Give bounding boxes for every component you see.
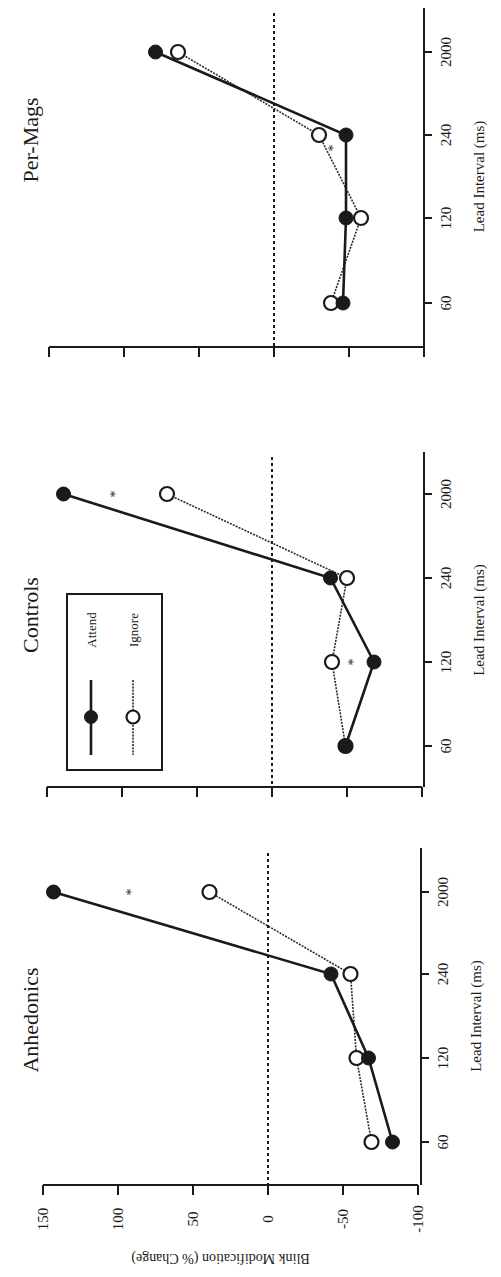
- attend-data-point: [339, 211, 353, 225]
- lead-axis-label: Lead Interval (ms): [471, 121, 488, 233]
- panel-anhedonics: Anhedonics150100500-50-100Blink Modifica…: [18, 848, 486, 1266]
- ignore-data-point: [171, 45, 185, 59]
- attend-series-line: [54, 892, 393, 1142]
- legend-attend-marker: [85, 711, 98, 724]
- value-tick-label: -100: [410, 1205, 426, 1233]
- significance-asterisk: *: [108, 491, 123, 498]
- lead-tick-label: 60: [438, 296, 454, 311]
- ignore-data-point: [312, 128, 326, 142]
- ignore-data-point: [344, 967, 358, 981]
- lead-tick-label: 2000: [438, 479, 454, 509]
- attend-data-point: [149, 45, 163, 59]
- lead-tick-label: 60: [438, 739, 454, 754]
- attend-series-line: [156, 52, 347, 303]
- blink-modification-chart: Anhedonics150100500-50-100Blink Modifica…: [0, 0, 501, 1277]
- attend-data-point: [339, 739, 353, 753]
- ignore-series-line: [167, 494, 347, 746]
- panel-title: Controls: [18, 577, 43, 653]
- lead-tick-label: 2000: [435, 877, 451, 907]
- significance-asterisk: *: [326, 145, 341, 152]
- attend-series-line: [64, 494, 375, 746]
- significance-asterisk: *: [124, 889, 139, 896]
- attend-data-point: [57, 487, 71, 501]
- lead-axis-label: Lead Interval (ms): [468, 960, 485, 1072]
- ignore-series-line: [210, 892, 372, 1142]
- panel-per-mags: Per-Mags601202402000Lead Interval (ms)*: [18, 8, 489, 357]
- value-tick-label: 150: [35, 1208, 51, 1231]
- lead-tick-label: 240: [438, 567, 454, 590]
- attend-data-point: [362, 1051, 376, 1065]
- ignore-series-line: [178, 52, 361, 303]
- value-tick-label: -50: [335, 1209, 351, 1229]
- value-axis-label: Blink Modification (% Change): [131, 1250, 310, 1266]
- legend-label-ignore: Ignore: [126, 613, 141, 647]
- legend-ignore-marker: [127, 711, 140, 724]
- attend-data-point: [47, 885, 61, 899]
- legend: AttendIgnore: [67, 594, 162, 770]
- ignore-data-point: [203, 885, 217, 899]
- attend-data-point: [367, 655, 381, 669]
- ignore-data-point: [325, 655, 339, 669]
- attend-data-point: [386, 1135, 400, 1149]
- lead-axis-label: Lead Interval (ms): [471, 564, 488, 676]
- legend-box: [67, 594, 162, 770]
- legend-label-attend: Attend: [84, 612, 99, 648]
- ignore-data-point: [354, 211, 368, 225]
- ignore-data-point: [340, 571, 354, 585]
- value-tick-label: 0: [260, 1215, 276, 1223]
- panel-title: Anhedonics: [18, 967, 43, 1072]
- attend-data-point: [324, 967, 338, 981]
- attend-data-point: [324, 571, 338, 585]
- significance-asterisk: *: [346, 659, 361, 666]
- lead-tick-label: 60: [435, 1135, 451, 1150]
- lead-tick-label: 120: [435, 1047, 451, 1070]
- ignore-data-point: [160, 487, 174, 501]
- value-tick-label: 100: [110, 1208, 126, 1231]
- lead-tick-label: 240: [435, 963, 451, 986]
- lead-tick-label: 120: [438, 207, 454, 230]
- panel-title: Per-Mags: [18, 97, 43, 182]
- lead-tick-label: 2000: [438, 37, 454, 67]
- lead-tick-label: 240: [438, 124, 454, 147]
- lead-tick-label: 120: [438, 651, 454, 674]
- ignore-data-point: [365, 1135, 379, 1149]
- attend-data-point: [339, 128, 353, 142]
- value-tick-label: 50: [185, 1212, 201, 1227]
- attend-data-point: [336, 296, 350, 310]
